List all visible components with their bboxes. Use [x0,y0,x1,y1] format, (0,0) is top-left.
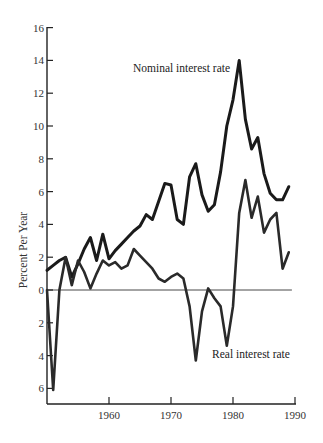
y-tick-label: 12 [33,87,44,99]
y-tick-label: 6 [39,186,45,198]
y-tick-label: 6 [39,382,45,394]
y-axis-label: Percent Per Year [17,212,29,288]
y-tick-label: 2 [39,317,45,329]
y-tick-label: 0 [39,284,45,296]
y-tick-label: 8 [39,153,45,165]
y-tick-label: 4 [39,350,45,362]
x-tick-label: 1980 [222,409,245,421]
nominal-rate-label: Nominal interest rate [133,62,230,74]
x-tick-label: 1970 [160,409,183,421]
nominal-rate-line [47,60,289,277]
x-tick-label: 1960 [98,409,121,421]
x-tick-label: 1990 [284,409,307,421]
interest-rate-chart: 1614121086420246 1960197019801990 Percen… [0,0,323,443]
y-tick-label: 4 [39,218,45,230]
y-tick-label: 16 [33,22,45,34]
real-rate-label: Real interest rate [212,348,290,360]
y-tick-label: 10 [33,120,45,132]
y-tick-label: 14 [33,54,45,66]
series-lines [47,60,289,390]
y-tick-label: 2 [39,251,45,263]
x-axis-ticks: 1960197019801990 [98,397,307,421]
